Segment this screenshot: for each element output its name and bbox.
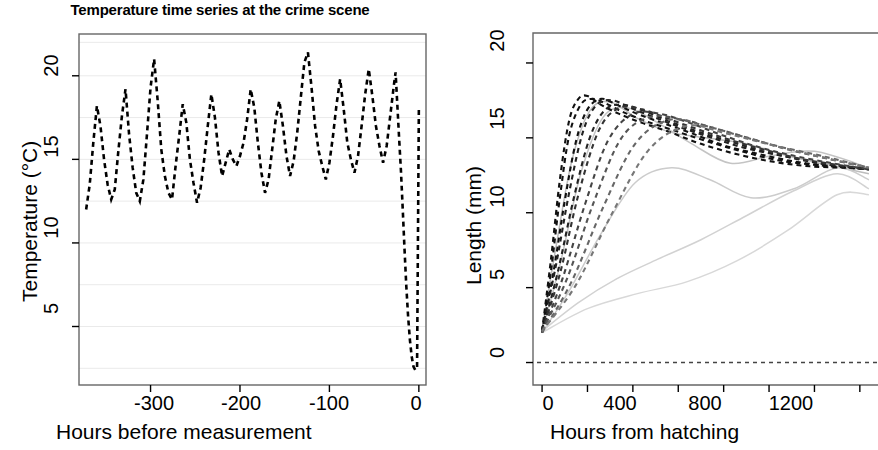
growth-curve-dashed (542, 112, 869, 333)
temperature-series-line (86, 52, 419, 370)
length-plot-area (440, 0, 878, 450)
growth-curve-dashed (542, 105, 869, 333)
growth-curves-group (542, 95, 869, 332)
growth-curve-dashed (542, 99, 869, 333)
growth-curve-dashed (542, 119, 869, 332)
temperature-panel: Temperature time series at the crime sce… (0, 0, 440, 450)
growth-curve-solid (542, 107, 869, 331)
growth-curve-dashed (542, 100, 869, 329)
plot-frame (533, 33, 878, 385)
length-panel: Length (mm) Hours from hatching 0 5 10 1… (440, 0, 878, 450)
growth-curve-solid (542, 192, 869, 332)
temperature-plot-area (0, 0, 440, 450)
growth-curve-dashed (542, 95, 869, 331)
figure-canvas: Temperature time series at the crime sce… (0, 0, 878, 450)
plot-frame (79, 34, 426, 385)
